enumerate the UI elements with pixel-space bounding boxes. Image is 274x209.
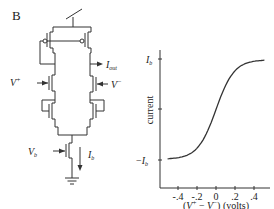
ib-arrow-icon	[78, 147, 83, 171]
nmos-left-cascode-transistor	[42, 96, 55, 127]
ib-label: Ib	[87, 149, 94, 161]
nmos-right-input-transistor	[90, 73, 108, 97]
nmos-left-input-transistor	[37, 72, 55, 96]
iout-label: Iout	[105, 59, 117, 71]
x-axis-label: (V+ − V−) (volts)	[183, 199, 249, 209]
panel-label: B	[12, 8, 21, 23]
ytick-ib-label: Ib	[145, 54, 152, 66]
figure-canvas: B	[0, 0, 274, 209]
ground-icon	[65, 166, 79, 184]
transamp-circuit: Iout V+ V−	[10, 9, 122, 184]
transfer-curve-chart: Ib −Ib current -.4 -.2 0 .2 .4 (V+ − V−)…	[136, 50, 270, 209]
vdd-supply-icon	[66, 9, 82, 27]
v-minus-label: V−	[111, 78, 122, 90]
ytick-neg-ib-label: −Ib	[136, 155, 148, 167]
vb-label: Vb	[28, 146, 37, 158]
tanh-curve-line	[168, 60, 265, 159]
pmos-right-transistor	[80, 27, 91, 53]
y-axis-label: current	[144, 96, 155, 125]
xtick-label: -.4	[173, 191, 184, 202]
xtick-label: .4	[250, 191, 258, 202]
pmos-left-transistor	[40, 27, 55, 64]
nmos-right-cascode-transistor	[90, 97, 104, 127]
iout-arrow-icon	[90, 62, 103, 67]
tail-node-wire	[55, 127, 90, 135]
v-plus-label: V+	[10, 76, 21, 88]
nmos-bias-transistor	[53, 141, 72, 166]
